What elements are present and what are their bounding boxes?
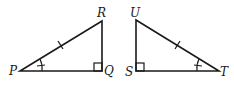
triangle-pqr — [20, 21, 102, 71]
label-t: T — [220, 65, 229, 79]
triangle-stu — [136, 20, 219, 71]
label-q: Q — [104, 64, 114, 78]
label-s: S — [125, 65, 133, 79]
label-u: U — [130, 6, 141, 20]
diagram-canvas: P Q R U S T — [0, 0, 234, 87]
angle-tick-t — [194, 65, 202, 66]
label-r: R — [96, 6, 106, 20]
angle-tick-p — [37, 65, 45, 66]
right-angle-marker-s — [136, 63, 144, 71]
right-angle-marker-q — [94, 63, 102, 71]
label-p: P — [8, 64, 18, 78]
